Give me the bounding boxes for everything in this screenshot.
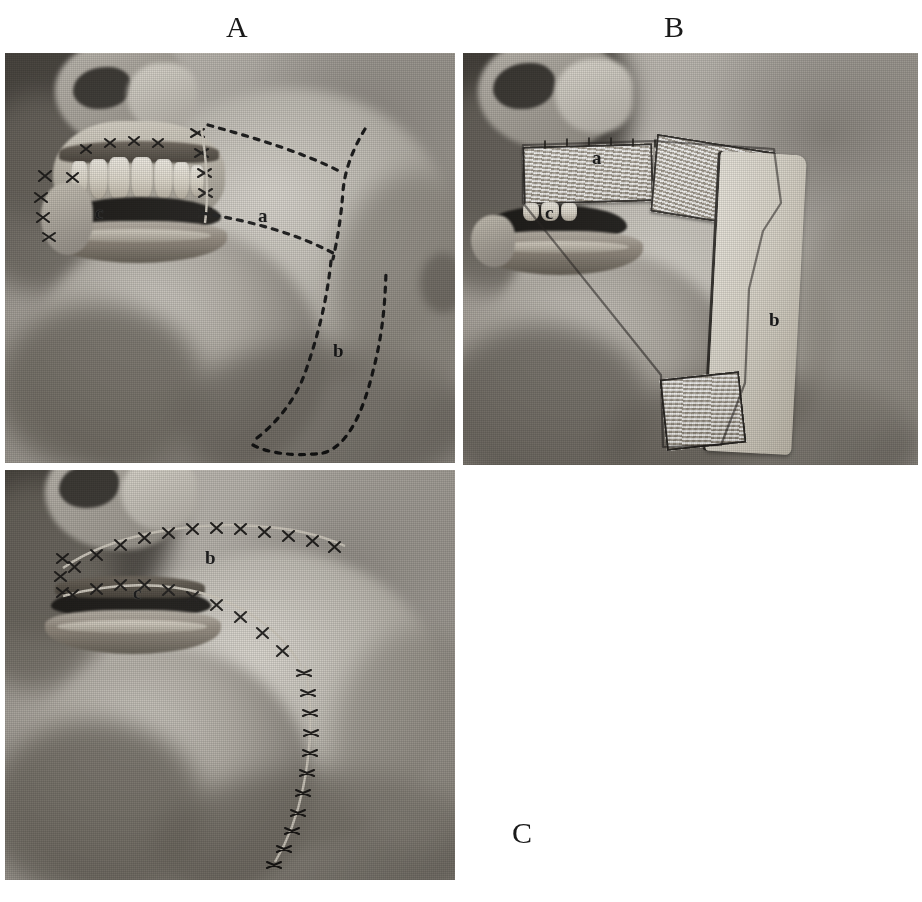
- panel-b-marker-b: b: [769, 310, 780, 329]
- panel-b-marker-c: c: [545, 203, 553, 222]
- panel-b-marker-a: a: [592, 148, 602, 167]
- panel-c-image: b c: [5, 470, 455, 880]
- plate-speck: ’: [893, 416, 897, 432]
- panel-letter-a: A: [226, 12, 248, 42]
- panel-b-cheek-flap-proximal: [522, 143, 653, 204]
- panel-b-image: a b c: [463, 53, 918, 465]
- panel-a-image: a b c: [5, 53, 455, 463]
- panel-a-marker-c: c: [95, 203, 103, 222]
- panel-a-marker-b: b: [333, 341, 344, 360]
- panel-c-marker-c: c: [133, 583, 141, 602]
- panel-c-marker-b: b: [205, 548, 216, 567]
- panel-b-flap-base-raw: [659, 371, 746, 451]
- panel-b-face: a b c: [463, 53, 918, 465]
- panel-a-face: a b c: [5, 53, 455, 463]
- panel-letter-c: C: [512, 818, 533, 848]
- figure-plate: A: [0, 0, 922, 902]
- panel-letter-b: B: [664, 12, 685, 42]
- panel-a-marker-a: a: [258, 206, 268, 225]
- panel-c-face: b c: [5, 470, 455, 880]
